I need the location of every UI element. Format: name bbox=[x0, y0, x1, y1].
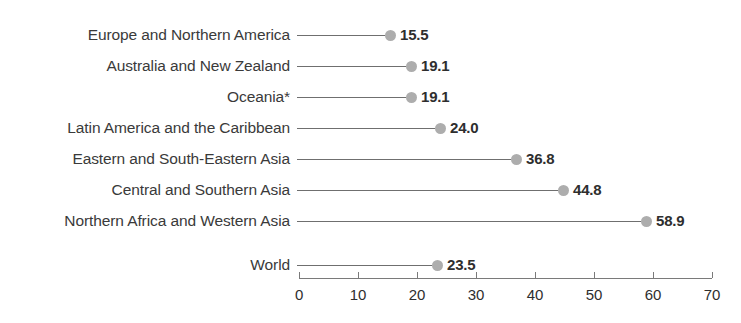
stem-line bbox=[297, 66, 406, 67]
value-label: 58.9 bbox=[656, 209, 684, 233]
x-axis-tick bbox=[535, 272, 536, 278]
x-axis-tick bbox=[712, 272, 713, 278]
x-axis-tick bbox=[594, 272, 595, 278]
value-dot[interactable] bbox=[406, 92, 417, 103]
stem-line bbox=[297, 190, 558, 191]
x-axis-tick bbox=[653, 272, 654, 278]
category-label: Australia and New Zealand bbox=[0, 54, 290, 78]
value-label: 19.1 bbox=[421, 54, 449, 78]
value-label: 23.5 bbox=[447, 253, 475, 277]
x-axis-tick-label: 20 bbox=[397, 286, 437, 304]
value-label: 15.5 bbox=[400, 23, 428, 47]
stem-line bbox=[297, 265, 432, 266]
x-axis-tick-label: 40 bbox=[515, 286, 555, 304]
chart-row: Eastern and South-Eastern Asia 36.8 bbox=[0, 147, 741, 171]
value-label: 44.8 bbox=[573, 178, 601, 202]
value-dot[interactable] bbox=[406, 61, 417, 72]
chart-row: Central and Southern Asia 44.8 bbox=[0, 178, 741, 202]
value-dot[interactable] bbox=[511, 154, 522, 165]
value-dot[interactable] bbox=[558, 185, 569, 196]
stem-line bbox=[297, 35, 385, 36]
category-label: World bbox=[0, 253, 290, 277]
chart-row: Australia and New Zealand 19.1 bbox=[0, 54, 741, 78]
x-axis-line bbox=[299, 278, 712, 279]
stem-line bbox=[297, 159, 511, 160]
category-label: Latin America and the Caribbean bbox=[0, 116, 290, 140]
category-label: Eastern and South-Eastern Asia bbox=[0, 147, 290, 171]
x-axis-tick bbox=[476, 272, 477, 278]
x-axis-tick-label: 50 bbox=[574, 286, 614, 304]
x-axis-tick bbox=[358, 272, 359, 278]
x-axis-tick-label: 0 bbox=[279, 286, 319, 304]
x-axis-tick bbox=[417, 272, 418, 278]
chart-row: Latin America and the Caribbean 24.0 bbox=[0, 116, 741, 140]
value-label: 19.1 bbox=[421, 85, 449, 109]
stem-line bbox=[297, 97, 406, 98]
stem-line bbox=[297, 128, 435, 129]
x-axis-tick-label: 30 bbox=[456, 286, 496, 304]
lollipop-chart: Europe and Northern America 15.5 Austral… bbox=[0, 0, 741, 323]
value-dot[interactable] bbox=[432, 260, 443, 271]
x-axis-tick-label: 60 bbox=[633, 286, 673, 304]
category-label: Northern Africa and Western Asia bbox=[0, 209, 290, 233]
chart-row-world: World 23.5 bbox=[0, 253, 741, 277]
value-dot[interactable] bbox=[641, 216, 652, 227]
value-dot[interactable] bbox=[435, 123, 446, 134]
chart-row: Europe and Northern America 15.5 bbox=[0, 23, 741, 47]
chart-row: Oceania* 19.1 bbox=[0, 85, 741, 109]
category-label: Oceania* bbox=[0, 85, 290, 109]
chart-row: Northern Africa and Western Asia 58.9 bbox=[0, 209, 741, 233]
x-axis-tick-label: 70 bbox=[692, 286, 732, 304]
x-axis-tick-label: 10 bbox=[338, 286, 378, 304]
category-label: Europe and Northern America bbox=[0, 23, 290, 47]
x-axis-tick bbox=[299, 272, 300, 278]
value-dot[interactable] bbox=[385, 30, 396, 41]
value-label: 24.0 bbox=[450, 116, 478, 140]
value-label: 36.8 bbox=[526, 147, 554, 171]
stem-line bbox=[297, 221, 641, 222]
category-label: Central and Southern Asia bbox=[0, 178, 290, 202]
